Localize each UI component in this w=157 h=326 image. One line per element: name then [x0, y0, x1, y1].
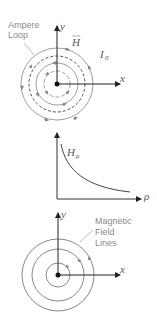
- field-lines-figure: y x Magnetic Field Lines: [22, 208, 132, 311]
- field-lines-leader: [80, 230, 93, 242]
- field-lines-label-2: Field: [95, 227, 115, 237]
- current-sub: 0: [105, 54, 109, 62]
- x-axis-label-bottom: x: [119, 263, 125, 275]
- current-source-dot: [55, 82, 60, 87]
- x-axis-label-top: x: [119, 72, 125, 84]
- ampere-loop-figure: Ampere Loop y x H I 0: [8, 20, 125, 120]
- diagram-canvas: Ampere Loop y x H I 0 H ρ ρ y x Magnetic: [0, 0, 157, 326]
- curve-sub: ρ: [75, 152, 80, 160]
- field-vector-label: H: [71, 36, 81, 48]
- h-rho-plot: H ρ ρ: [57, 133, 149, 202]
- y-axis-label-top: y: [59, 20, 65, 32]
- plot-x-label: ρ: [143, 190, 149, 202]
- curve-label: H: [66, 146, 76, 158]
- wire-dot: [56, 273, 61, 278]
- ampere-label-line1: Ampere: [8, 20, 40, 30]
- field-lines-label-1: Magnetic: [95, 216, 132, 226]
- ampere-leader-line: [24, 43, 34, 55]
- y-axis-label-bottom: y: [60, 208, 66, 220]
- field-lines-label-3: Lines: [95, 238, 117, 248]
- ampere-label-line2: Loop: [8, 30, 28, 40]
